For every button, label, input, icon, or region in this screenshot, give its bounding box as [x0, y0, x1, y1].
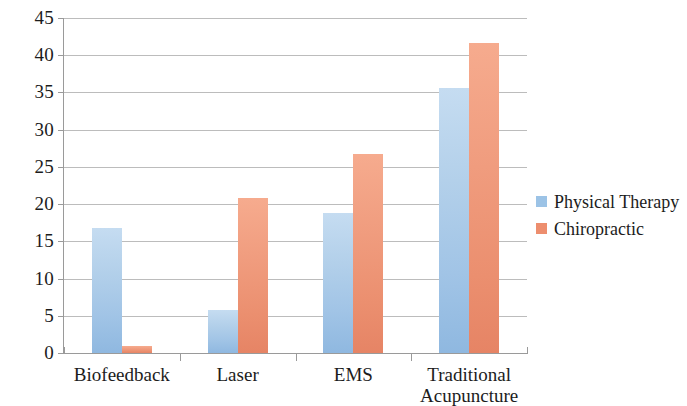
y-tick-label-45: 45 — [8, 8, 54, 27]
bar-biofeedback-chiropractic — [122, 346, 152, 353]
legend-swatch-icon — [536, 223, 547, 234]
legend-item-chiropractic[interactable]: Chiropractic — [536, 215, 687, 242]
y-tick-label-30: 30 — [8, 120, 54, 139]
y-tick-label-35: 35 — [8, 82, 54, 101]
x-tick-2 — [296, 353, 297, 361]
legend-swatch-icon — [536, 196, 547, 207]
x-tick-4 — [527, 347, 528, 354]
y-tick-label-5: 5 — [8, 306, 54, 325]
y-tick-label-40: 40 — [8, 45, 54, 64]
bar-ems-physical-therapy — [323, 213, 353, 353]
y-tick-label-25: 25 — [8, 157, 54, 176]
plot-area — [64, 18, 527, 353]
bar-laser-physical-therapy — [208, 310, 238, 353]
y-tick-label-10: 10 — [8, 269, 54, 288]
bar-traditional-acupuncture-physical-therapy — [439, 88, 469, 353]
category-label-traditional-acupuncture: TraditionalAcupuncture — [396, 364, 542, 406]
gridline-45 — [64, 18, 527, 19]
legend-label: Chiropractic — [554, 220, 644, 238]
category-label-line: Acupuncture — [396, 385, 542, 406]
y-tick-label-15: 15 — [8, 231, 54, 250]
category-label-line: Traditional — [396, 364, 542, 385]
bar-laser-chiropractic — [238, 198, 268, 353]
gridline-40 — [64, 55, 527, 56]
bar-traditional-acupuncture-chiropractic — [469, 43, 499, 353]
bar-ems-chiropractic — [353, 154, 383, 353]
x-tick-1 — [180, 353, 181, 361]
y-tick-label-0: 0 — [8, 343, 54, 362]
legend-item-physical-therapy[interactable]: Physical Therapy — [536, 188, 687, 215]
y-tick-label-20: 20 — [8, 194, 54, 213]
x-tick-3 — [411, 353, 412, 361]
y-axis-labels: 454035302520151050 — [0, 0, 54, 406]
bar-biofeedback-physical-therapy — [92, 228, 122, 353]
x-tick-0 — [64, 347, 65, 354]
bar-chart: 454035302520151050 BiofeedbackLaserEMSTr… — [0, 0, 687, 406]
legend: Physical TherapyChiropractic — [536, 188, 687, 242]
legend-label: Physical Therapy — [554, 193, 679, 211]
